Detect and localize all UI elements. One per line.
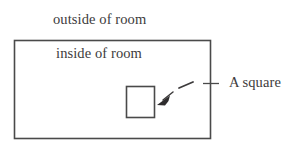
label-outside-of-room: outside of room <box>53 11 146 28</box>
inner-square <box>127 87 155 118</box>
diagram-canvas: outside of room inside of room A square <box>0 0 304 151</box>
label-a-square-callout: A square <box>229 74 281 91</box>
label-inside-of-room: inside of room <box>56 45 142 62</box>
callout-arrowhead <box>157 96 170 106</box>
callout-dash-segment <box>179 82 193 88</box>
